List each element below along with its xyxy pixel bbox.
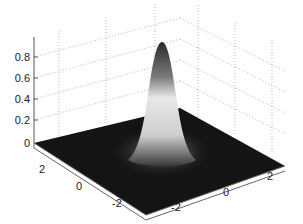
z-tick-label: 0 (24, 137, 30, 149)
z-axis: 0.8 0.6 0.4 0.2 0 (15, 37, 38, 149)
x-tick-label: 2 (267, 170, 273, 182)
z-tick-label: 0.6 (15, 72, 30, 84)
surface-plot: 0.8 0.6 0.4 0.2 0 2 0 -2 -2 0 2 (0, 0, 303, 224)
surface-peak (128, 42, 196, 166)
z-tick-label: 0.8 (15, 51, 30, 63)
y-tick-label: 2 (39, 163, 45, 175)
y-tick-label: -2 (112, 197, 122, 209)
x-tick-label: -2 (171, 201, 181, 213)
z-tick-label: 0.2 (15, 114, 30, 126)
y-tick-label: 0 (76, 180, 82, 192)
x-tick-label: 0 (223, 186, 229, 198)
z-tick-label: 0.4 (15, 93, 30, 105)
